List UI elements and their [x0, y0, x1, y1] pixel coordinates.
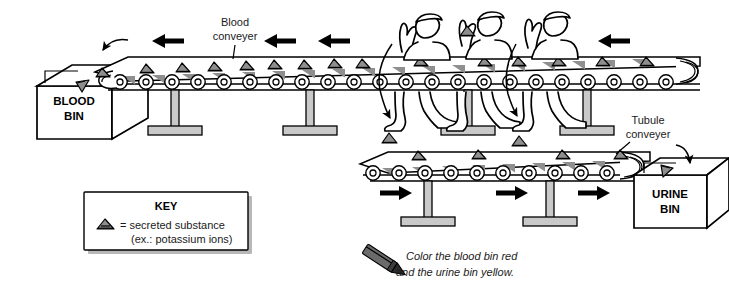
tubule-flow-arrows: [380, 186, 610, 200]
tubule-conveyer-support-1: [401, 181, 455, 226]
tubule-conveyer-support-2: [523, 181, 577, 226]
instruction-line-1: Color the blood bin red: [406, 250, 518, 262]
blood-conveyer-label-line2: conveyer: [213, 30, 258, 42]
worker-3: [513, 12, 586, 131]
blood-bin-label-line2: BIN: [64, 110, 84, 122]
diagram-canvas: BLOOD BIN: [0, 0, 729, 294]
tubule-flow-arrow-1: [380, 186, 412, 200]
blood-flow-arrow-4: [598, 34, 630, 48]
key-box: KEY = secreted substance (ex.: potassium…: [84, 192, 252, 254]
urine-bin-label-line2: BIN: [660, 203, 680, 215]
tubule-conveyer-label-line2: conveyer: [626, 128, 671, 140]
key-line-1: = secreted substance: [120, 219, 225, 231]
urine-bin-label-line1: URINE: [652, 188, 688, 200]
blood-conveyer-label-line1: Blood: [221, 16, 249, 28]
tubule-flow-arrow-2: [496, 186, 528, 200]
blood-conveyer-support-1: [148, 90, 202, 135]
blood-flow-arrow-2: [264, 34, 296, 48]
coloring-instruction: Color the blood bin red and the urine bi…: [362, 244, 518, 279]
instruction-line-2: and the urine bin yellow.: [396, 266, 514, 278]
blood-conveyer-support-2: [283, 90, 337, 135]
tubule-conveyer: [360, 150, 650, 226]
tubule-conveyer-label: Tubule conveyer: [616, 114, 671, 154]
blood-conveyer-label: Blood conveyer: [213, 16, 258, 59]
tubule-conveyer-label-line1: Tubule: [631, 114, 664, 126]
blood-flow-arrow-1: [152, 34, 184, 48]
falling-substance-1: [382, 133, 397, 143]
blood-flow-arrow-3: [318, 34, 350, 48]
blood-conveyer-rollers: [113, 75, 673, 89]
key-line-2: (ex.: potassium ions): [131, 233, 232, 245]
tubule-flow-arrow-3: [578, 186, 610, 200]
nephron-conveyer-diagram: BLOOD BIN: [0, 0, 729, 294]
blood-bin-label-line1: BLOOD: [53, 95, 95, 107]
key-title: KEY: [155, 200, 178, 212]
falling-substance-2: [512, 136, 527, 146]
